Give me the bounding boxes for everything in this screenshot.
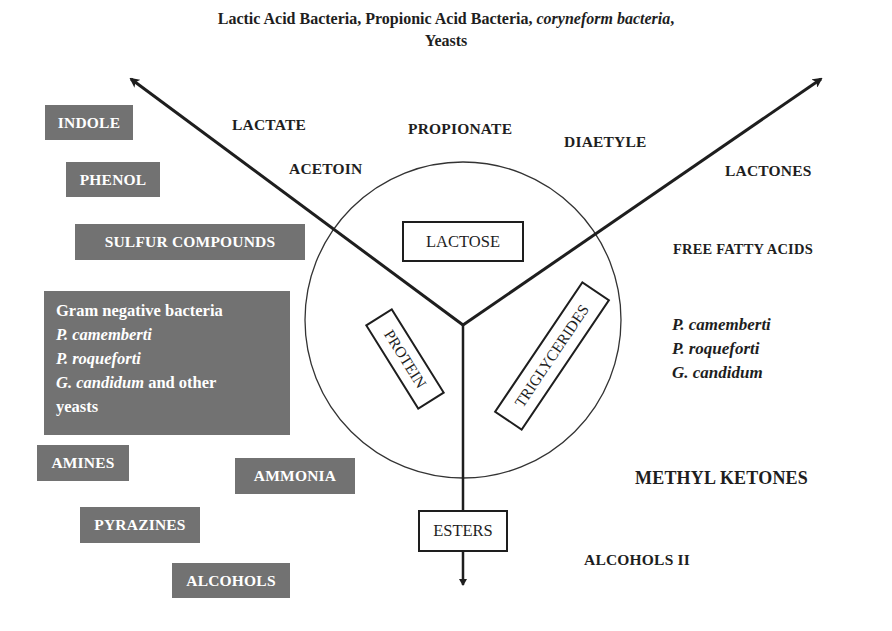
product-esters-label: ESTERS [433,521,493,541]
substrate-lactose-label: LACTOSE [426,232,500,252]
box-alcohols: ALCOHOLS [172,563,290,598]
label-alcohols-ii: ALCOHOLS II [584,551,690,569]
label-free-fatty-acids: FREE FATTY ACIDS [673,241,813,258]
box-alcohols-label: ALCOHOLS [186,572,275,590]
box-amines: AMINES [37,445,129,481]
box-phenol: PHENOL [66,162,160,197]
label-lactate: LACTATE [232,116,306,134]
label-methyl-ketones: METHYL KETONES [635,468,808,489]
arrow-lipid-pathway [463,79,821,325]
lipolytic-organisms-list: P. camemberti P. roqueforti G. candidum [672,313,771,385]
box-ammonia-label: AMMONIA [254,467,336,485]
box-sulfur-compounds: SULFUR COMPOUNDS [75,224,305,260]
box-ammonia: AMMONIA [235,458,355,494]
microorganisms-title: Lactic Acid Bacteria, Propionic Acid Bac… [0,8,892,52]
box-phenol-label: PHENOL [80,171,147,189]
organisms-line-yeasts: yeasts [56,395,278,419]
title-line1-italic: coryneform bacteria [537,10,671,27]
title-line1-end: , [670,10,674,27]
box-pyrazines-label: PYRAZINES [94,516,185,534]
organism-p-camemberti: P. camemberti [672,313,771,337]
substrate-lactose-box: LACTOSE [402,221,524,262]
product-esters-box: ESTERS [418,510,508,552]
box-sulfur-compounds-label: SULFUR COMPOUNDS [105,233,276,251]
box-pyrazines: PYRAZINES [80,507,200,543]
organisms-line-p-camemberti: P. camemberti [56,323,278,347]
organisms-line-and-other: and other [144,373,216,392]
label-propionate: PROPIONATE [408,120,512,138]
organisms-line-p-roqueforti: P. roqueforti [56,347,278,371]
organism-p-roqueforti: P. roqueforti [672,337,771,361]
organisms-line-g-candidum: G. candidum [56,373,144,392]
organism-g-candidum: G. candidum [672,361,771,385]
box-indole-label: INDOLE [58,114,120,132]
organisms-line-gram-negative: Gram negative bacteria [56,299,278,323]
box-indole: INDOLE [45,105,133,140]
title-line1-plain: Lactic Acid Bacteria, Propionic Acid Bac… [218,10,537,27]
box-proteolytic-organisms: Gram negative bacteria P. camemberti P. … [44,291,290,435]
label-acetoin: ACETOIN [289,160,362,178]
title-line2: Yeasts [0,30,892,52]
label-lactones: LACTONES [725,162,812,180]
label-diaetyle: DIAETYLE [564,133,647,151]
box-amines-label: AMINES [51,454,114,472]
